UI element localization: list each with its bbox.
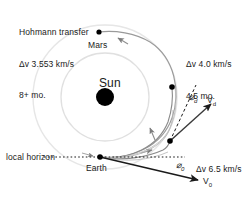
- v0-subscript: 0: [209, 182, 212, 188]
- arrival-point-lower: [167, 138, 173, 144]
- hohmann-label-line2: Δv 3.553 km/s: [19, 59, 89, 70]
- phi0-angle-label: ⌀0: [176, 160, 185, 174]
- mars-label: Mars: [88, 40, 107, 51]
- intermediate-transfer-arrowhead: [150, 128, 155, 140]
- earth-body: [97, 154, 103, 160]
- hohmann-transfer-label: Hohmann transfer Δv 3.553 km/s 8+ mo.: [19, 6, 89, 122]
- local-horizon-label: local horizon: [6, 152, 55, 163]
- hohmann-label-line3: 8+ mo.: [19, 90, 89, 101]
- vd-subscript: d: [213, 101, 216, 107]
- fast-label-line1: Δv 6.5 km/s: [196, 164, 242, 175]
- sun-body: [96, 88, 114, 106]
- hohmann-label-line1: Hohmann transfer: [19, 27, 89, 38]
- phid-subscript: d: [194, 98, 197, 104]
- vd-label: Vd: [207, 95, 216, 109]
- phi0-subscript: 0: [181, 166, 184, 172]
- orbit-direction-arrow: [82, 153, 93, 156]
- sun-label: Sun: [99, 78, 121, 89]
- hohmann-transfer-arrowhead: [118, 38, 128, 44]
- transfer-orbit-diagram: Hohmann transfer Δv 3.553 km/s 8+ mo. Δv…: [0, 0, 247, 196]
- earth-label: Earth: [86, 163, 107, 174]
- mars-body: [96, 29, 101, 34]
- phid-angle-label: ⌀d: [189, 92, 198, 106]
- intermediate-transfer-label: Δv 4.0 km/s 4.5 mo.: [186, 38, 232, 122]
- arrival-point-upper: [169, 84, 175, 90]
- fast-label-line2: 2.5 mo.: [196, 196, 242, 197]
- intermediate-label-line1: Δv 4.0 km/s: [186, 59, 232, 70]
- v0-label: V0: [203, 176, 212, 190]
